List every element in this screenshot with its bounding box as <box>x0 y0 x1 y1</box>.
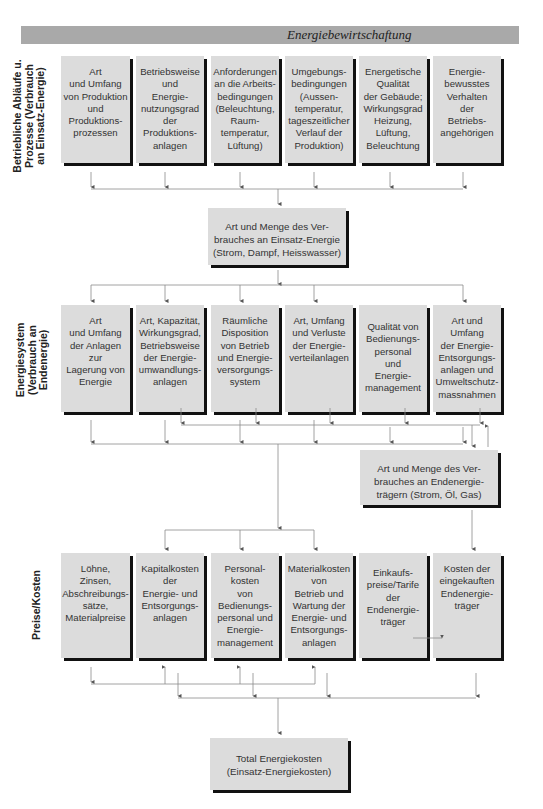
connector-lines <box>0 0 543 809</box>
